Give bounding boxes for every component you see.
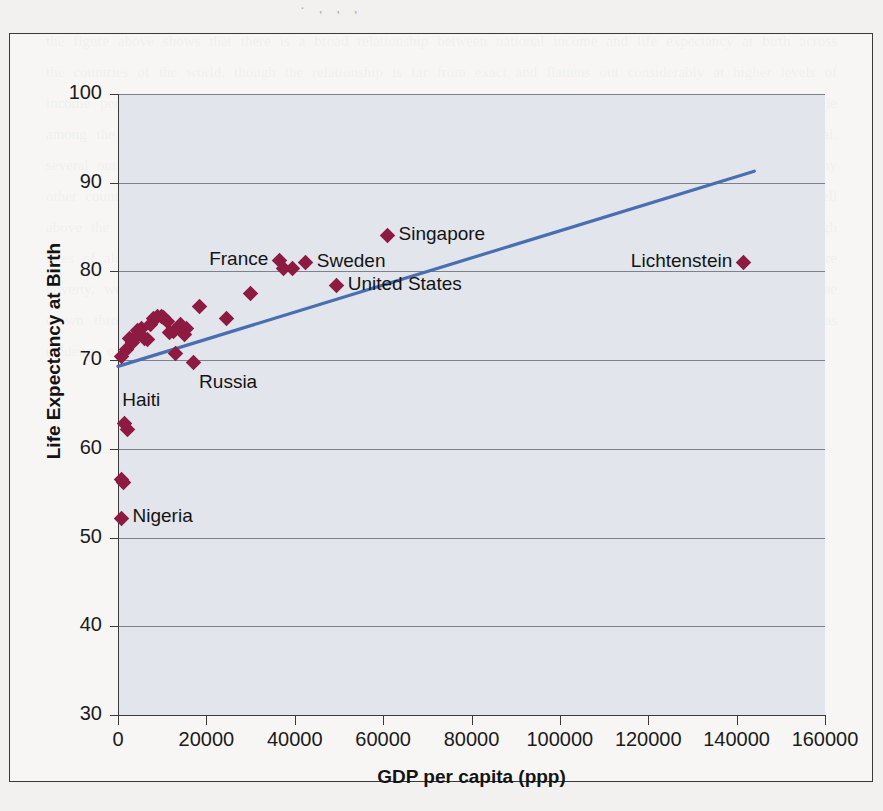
- point-label-united-states: United States: [348, 273, 462, 295]
- point-label-sweden: Sweden: [317, 250, 386, 272]
- point-label-nigeria: Nigeria: [133, 505, 193, 527]
- point-label-lichtenstein: Lichtenstein: [631, 250, 732, 272]
- point-label-haiti: Haiti: [122, 389, 160, 411]
- cropped-caption-fragment: · , , ,: [300, 0, 883, 14]
- point-label-france: France: [209, 248, 268, 270]
- point-label-russia: Russia: [199, 371, 257, 393]
- figure-frame: GDP per capita (ppp) Life Expectancy at …: [9, 33, 873, 782]
- point-label-singapore: Singapore: [399, 223, 486, 245]
